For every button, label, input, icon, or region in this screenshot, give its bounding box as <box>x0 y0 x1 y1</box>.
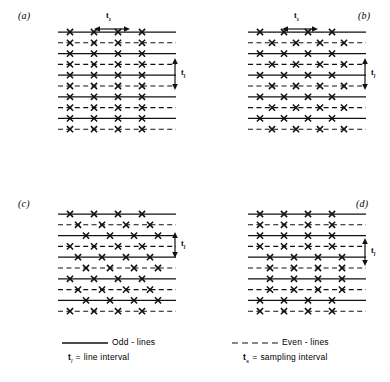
tl-label-d: tl <box>371 246 375 257</box>
sampling-lattice-c <box>58 210 180 322</box>
legend-even: Even - lines <box>232 333 329 351</box>
tl-interval-arrow-d <box>360 238 370 270</box>
interlace-sampling-figure: (a)tstl(b)tstl(c)tl(d)tlOdd - linesEven … <box>0 0 390 382</box>
legend-line-interval-equals: = <box>76 352 81 362</box>
tl-subscript: l <box>184 73 186 79</box>
tl-subscript: l <box>374 251 376 257</box>
odd-line-icon <box>62 333 108 351</box>
legend-sampling-interval-text: sampling interval <box>260 352 327 362</box>
tl-subscript: l <box>374 73 376 79</box>
panel-label-d: (d) <box>356 198 368 209</box>
sampling-lattice-b <box>248 28 370 140</box>
ts-label-a: ts <box>106 11 111 22</box>
panel-label-a: (a) <box>18 10 30 21</box>
legend-sampling-interval-subscript: s <box>246 358 249 364</box>
ts-interval-arrow-b <box>282 20 318 38</box>
sampling-lattice-a <box>58 28 180 140</box>
legend-odd-text: Odd - lines <box>112 337 155 347</box>
even-line-icon <box>232 333 278 351</box>
tl-label-a: tl <box>181 68 185 79</box>
panel-label-c: (c) <box>18 198 30 209</box>
legend-line-interval-subscript: l <box>71 358 73 364</box>
legend-line-interval-text: line interval <box>84 352 130 362</box>
tl-subscript: l <box>184 244 186 250</box>
ts-interval-arrow-a <box>94 20 130 38</box>
tl-interval-arrow-a <box>170 58 180 94</box>
legend-sampling-interval-equals: = <box>252 352 257 362</box>
legend-line-interval: tl=line interval <box>68 352 129 364</box>
ts-subscript: s <box>109 16 111 22</box>
panel-label-b: (b) <box>358 10 370 21</box>
legend-even-text: Even - lines <box>282 337 329 347</box>
sampling-lattice-d <box>248 210 370 322</box>
ts-label-b: ts <box>294 11 299 22</box>
legend-sampling-interval: ts=sampling interval <box>243 352 328 364</box>
tl-interval-arrow-b <box>360 58 370 94</box>
legend-odd: Odd - lines <box>62 333 155 351</box>
ts-subscript: s <box>297 16 299 22</box>
tl-label-c: tl <box>181 239 185 250</box>
tl-label-b: tl <box>371 68 375 79</box>
tl-interval-arrow-c <box>170 232 180 262</box>
